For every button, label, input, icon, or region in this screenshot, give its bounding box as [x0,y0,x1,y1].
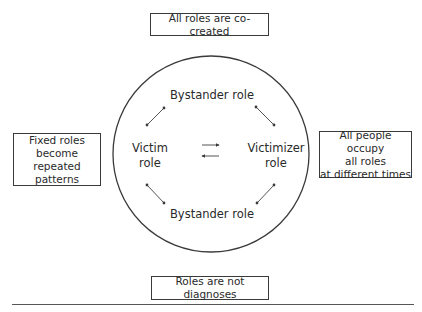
arrow-victim-bystander-top [147,108,164,125]
label-bystander-top: Bystander role [160,88,264,103]
label-victim: Victim role [120,141,180,171]
box-not-diagnoses: Roles are not diagnoses [151,276,269,300]
arrow-bystander-bottom-victimizer [257,185,274,203]
box-fixed-roles: Fixed roles become repeated patterns [13,133,101,186]
box-all-people: All people occupy all roles at different… [319,131,412,178]
arrow-bystander-top-victimizer [256,107,274,125]
box-co-created: All roles are co-created [150,13,269,36]
bottom-rule [12,304,414,305]
arrow-victim-bystander-bottom [147,185,164,203]
label-victimizer: Victimizer role [244,141,308,171]
label-bystander-bottom: Bystander role [160,207,264,222]
